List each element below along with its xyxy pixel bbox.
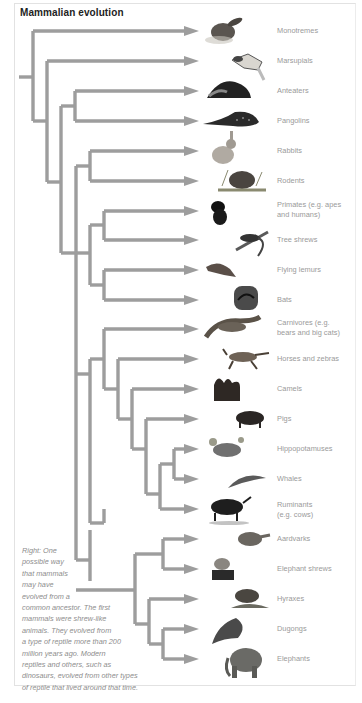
hippo-icon bbox=[207, 436, 249, 462]
caption-line: of reptile that lived around that time. bbox=[22, 682, 172, 693]
caption-line: dinosaurs, evolved from other types bbox=[22, 670, 172, 681]
caption-line: may have bbox=[22, 579, 172, 590]
leaf-label-monotremes: Monotremes bbox=[277, 26, 357, 36]
leaf-label-line: and humans) bbox=[277, 210, 357, 220]
rabbit-icon bbox=[209, 131, 239, 165]
caption-line: animals. They evolved from bbox=[22, 625, 172, 636]
whale-icon bbox=[226, 468, 268, 490]
leaf-label-elephants: Elephants bbox=[277, 654, 357, 664]
elephant-icon bbox=[222, 644, 276, 682]
caption-line: common ancestor. The first bbox=[22, 602, 172, 613]
leaf-label-hippopotamuses: Hippopotamuses bbox=[277, 444, 357, 454]
pangolin-icon bbox=[203, 110, 261, 130]
leaf-label-whales: Whales bbox=[277, 474, 357, 484]
elephant-shrew-icon bbox=[208, 554, 238, 582]
bat-icon bbox=[232, 284, 260, 312]
anteater-icon bbox=[205, 78, 253, 102]
caption-line: a type of reptile more than 200 bbox=[22, 636, 172, 647]
cheetah-icon bbox=[204, 315, 264, 341]
rodent-icon bbox=[216, 166, 268, 194]
leaf-label-line: (e.g. cows) bbox=[277, 510, 357, 520]
caption-line: that mammals bbox=[22, 568, 172, 579]
leaf-label-aardvarks: Aardvarks bbox=[277, 534, 357, 544]
dugong-icon bbox=[208, 616, 248, 646]
flying-lemur-icon bbox=[204, 259, 238, 281]
leaf-label-hyraxes: Hyraxes bbox=[277, 594, 357, 604]
camel-icon bbox=[210, 371, 244, 405]
leaf-label-horses-zebras: Horses and zebras bbox=[277, 354, 357, 364]
aardvark-icon bbox=[232, 527, 272, 551]
leaf-label-tree-shrews: Tree shrews bbox=[277, 235, 357, 245]
leaf-label-dugongs: Dugongs bbox=[277, 624, 357, 634]
leaf-label-pigs: Pigs bbox=[277, 414, 357, 424]
leaf-label-primates: Primates (e.g. apes and humans) bbox=[277, 200, 357, 220]
horse-icon bbox=[221, 345, 273, 371]
platypus-icon bbox=[205, 12, 245, 48]
leaf-label-marsupials: Marsupials bbox=[277, 56, 357, 66]
leaf-label-line: Primates (e.g. apes bbox=[277, 200, 357, 210]
leaf-label-flying-lemurs: Flying lemurs bbox=[277, 265, 357, 275]
caption-line: possible way bbox=[22, 556, 172, 567]
figure-caption: Right: One possible way that mammals may… bbox=[22, 545, 172, 693]
primate-icon bbox=[206, 197, 234, 227]
caption-line: evolved from a bbox=[22, 591, 172, 602]
leaf-label-line: bears and big cats) bbox=[277, 328, 357, 338]
tree-shrew-icon bbox=[232, 226, 272, 258]
leaf-label-ruminants: Ruminants (e.g. cows) bbox=[277, 500, 357, 520]
leaf-label-rodents: Rodents bbox=[277, 176, 357, 186]
leaf-label-line: Carnivores (e.g. bbox=[277, 318, 357, 328]
hyrax-icon bbox=[229, 586, 271, 612]
leaf-label-anteaters: Anteaters bbox=[277, 86, 357, 96]
leaf-label-rabbits: Rabbits bbox=[277, 146, 357, 156]
leaf-label-elephant-shrews: Elephant shrews bbox=[277, 564, 357, 574]
boar-icon bbox=[232, 408, 270, 430]
caption-line: mammals were shrew-like bbox=[22, 613, 172, 624]
caption-line: million years ago. Modern bbox=[22, 648, 172, 659]
leaf-label-bats: Bats bbox=[277, 295, 357, 305]
leaf-label-pangolins: Pangolins bbox=[277, 116, 357, 126]
leaf-label-carnivores: Carnivores (e.g. bears and big cats) bbox=[277, 318, 357, 338]
caption-line: Right: One bbox=[22, 545, 172, 556]
leaf-label-line: Ruminants bbox=[277, 500, 357, 510]
caption-line: reptiles and others, such as bbox=[22, 659, 172, 670]
leaf-label-camels: Camels bbox=[277, 384, 357, 394]
buffalo-icon bbox=[205, 495, 255, 525]
